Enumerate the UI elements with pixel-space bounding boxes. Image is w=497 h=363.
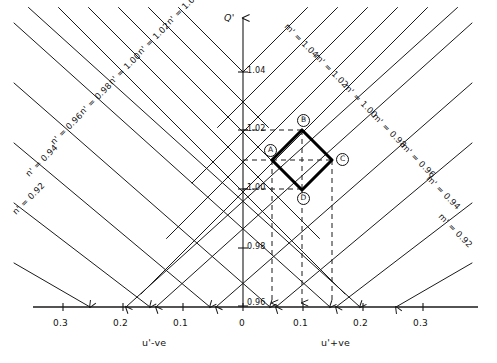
x-tick-right-0-2: 0.2 <box>353 318 368 328</box>
x-tick-left-0-3: 0.3 <box>53 318 68 328</box>
point-label-b: B <box>297 114 310 127</box>
point-label-c: C <box>336 153 349 166</box>
y-tick-1-04: 1.04 <box>247 66 266 75</box>
x-axis-right-caption: u'+ve <box>321 337 350 348</box>
x-tick-left-0-2: 0.2 <box>113 318 128 328</box>
x-tick-right-0-3: 0.3 <box>413 318 428 328</box>
point-label-a: A <box>264 144 277 157</box>
y-tick-0-98: 0.98 <box>247 242 266 251</box>
x-tick-origin: 0 <box>239 318 245 328</box>
y-tick-1-02: 1.02 <box>247 124 266 133</box>
q-axis-label: Q' <box>224 12 235 23</box>
y-tick-0-96: 0.96 <box>247 298 266 307</box>
nomogram-canvas <box>0 0 497 363</box>
x-axis-left-caption: u'-ve <box>142 337 166 348</box>
point-label-d: D <box>297 192 310 205</box>
axes <box>33 18 478 307</box>
y-tick-1-00: 1.00 <box>247 183 266 192</box>
nomogram-figure: n' = 1.04 n' = 1.02 n' = 1.00 n' = 0.98 … <box>0 0 497 363</box>
x-tick-left-0-1: 0.1 <box>173 318 188 328</box>
x-tick-right-0-1: 0.1 <box>293 318 308 328</box>
